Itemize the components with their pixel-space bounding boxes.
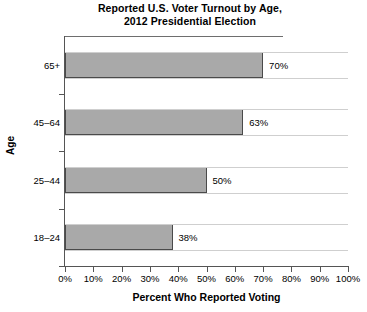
y-axis-tick xyxy=(59,209,65,210)
x-axis-tick-label: 90% xyxy=(310,273,329,284)
x-axis-tick-label: 40% xyxy=(169,273,188,284)
band-rule xyxy=(65,250,348,251)
band-rule xyxy=(65,224,348,225)
x-axis-tick xyxy=(93,267,94,272)
x-axis-tick-label: 50% xyxy=(197,273,216,284)
chart-page: Reported U.S. Voter Turnout by Age, 2012… xyxy=(0,0,367,312)
bar-row: 70% xyxy=(65,52,348,78)
y-axis-label: 18–24 xyxy=(34,232,60,243)
bar-row: 50% xyxy=(65,167,348,193)
chart-title: Reported U.S. Voter Turnout by Age, 2012… xyxy=(60,2,320,28)
x-axis-tick xyxy=(122,267,123,272)
y-axis-tick xyxy=(59,94,65,95)
y-axis-label: 45–64 xyxy=(34,117,60,128)
band-rule xyxy=(65,135,348,136)
bar-18-24[interactable] xyxy=(65,224,173,250)
x-axis-tick-label: 70% xyxy=(254,273,273,284)
x-axis-tick xyxy=(178,267,179,272)
x-axis-tick xyxy=(65,267,66,272)
y-axis-title: Age xyxy=(5,124,16,168)
x-axis-tick-label: 0% xyxy=(58,273,72,284)
y-axis-label: 65+ xyxy=(44,59,60,70)
band-rule xyxy=(65,78,348,79)
bar-value-label: 63% xyxy=(249,117,268,128)
band-rule xyxy=(65,52,348,53)
bar-45-64[interactable] xyxy=(65,109,243,135)
x-axis-tick xyxy=(263,267,264,272)
x-axis-tick-label: 20% xyxy=(112,273,131,284)
x-axis-tick-label: 80% xyxy=(282,273,301,284)
chart-title-line-2: 2012 Presidential Election xyxy=(60,15,320,28)
bar-row: 63% xyxy=(65,109,348,135)
bar-65+[interactable] xyxy=(65,52,263,78)
band-rule xyxy=(65,109,348,110)
x-axis-tick-label: 30% xyxy=(140,273,159,284)
chart-title-line-1: Reported U.S. Voter Turnout by Age, xyxy=(60,2,320,15)
bar-value-label: 50% xyxy=(213,174,232,185)
bar-value-label: 38% xyxy=(179,232,198,243)
x-axis-title: Percent Who Reported Voting xyxy=(65,291,348,303)
x-axis-tick xyxy=(348,267,349,272)
x-axis-tick xyxy=(150,267,151,272)
y-axis-tick xyxy=(59,151,65,152)
bar-row: 38% xyxy=(65,224,348,250)
band-rule xyxy=(65,167,348,168)
x-axis-tick-label: 10% xyxy=(84,273,103,284)
bar-25-44[interactable] xyxy=(65,167,207,193)
bar-value-label: 70% xyxy=(269,59,288,70)
x-axis-tick xyxy=(207,267,208,272)
x-axis-tick-label: 60% xyxy=(225,273,244,284)
x-axis-tick xyxy=(235,267,236,272)
y-axis-label: 25–44 xyxy=(34,174,60,185)
x-axis-tick xyxy=(291,267,292,272)
x-axis-tick-label: 100% xyxy=(336,273,360,284)
band-rule xyxy=(65,193,348,194)
x-axis-tick xyxy=(320,267,321,272)
plot-area: 70%63%50%38% xyxy=(65,36,348,266)
